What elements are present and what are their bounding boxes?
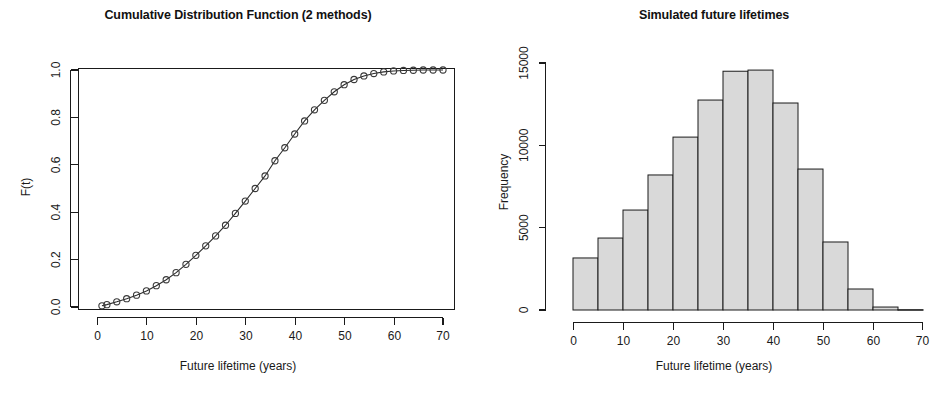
figure-canvas: Cumulative Distribution Function (2 meth… bbox=[0, 0, 952, 411]
cdf-xtick-60: 60 bbox=[388, 329, 402, 343]
histogram-ytick-0: 0 bbox=[517, 306, 531, 313]
cdf-ytick-4: 0.8 bbox=[49, 109, 63, 126]
histogram-bar bbox=[898, 310, 923, 311]
histogram-ylabel: Frequency bbox=[497, 132, 511, 232]
histogram-xtick-30: 30 bbox=[717, 334, 731, 348]
histogram-bar bbox=[573, 258, 598, 310]
cdf-marker-group bbox=[99, 67, 446, 309]
cdf-y-axis: 0.0 0.2 0.4 0.6 0.8 1.0 bbox=[49, 61, 78, 315]
histogram-bar bbox=[773, 103, 798, 310]
histogram-bar bbox=[798, 169, 823, 310]
cdf-xlabel: Future lifetime (years) bbox=[0, 359, 476, 373]
cdf-xtick-50: 50 bbox=[338, 329, 352, 343]
cdf-xtick-10: 10 bbox=[140, 329, 154, 343]
histogram-svg: 0 5000 10000 15000 bbox=[476, 0, 952, 411]
histogram-bar bbox=[598, 238, 623, 310]
histogram-xlabel: Future lifetime (years) bbox=[476, 359, 952, 373]
cdf-ytick-2: 0.4 bbox=[49, 204, 63, 221]
cdf-ytick-0: 0.0 bbox=[49, 298, 63, 315]
panel-histogram: Simulated future lifetimes 0 5000 10000 … bbox=[476, 0, 952, 411]
cdf-xtick-0: 0 bbox=[94, 329, 101, 343]
histogram-bar-group bbox=[573, 70, 923, 310]
histogram-bar bbox=[673, 137, 698, 310]
cdf-xtick-30: 30 bbox=[239, 329, 253, 343]
histogram-bar bbox=[873, 307, 898, 310]
cdf-ytick-5: 1.0 bbox=[49, 61, 63, 78]
histogram-ytick-15000: 15000 bbox=[517, 46, 531, 80]
cdf-xtick-40: 40 bbox=[289, 329, 303, 343]
histogram-bar bbox=[748, 70, 773, 310]
histogram-xtick-10: 10 bbox=[617, 334, 631, 348]
histogram-y-axis: 0 5000 10000 15000 bbox=[517, 46, 546, 313]
histogram-xtick-20: 20 bbox=[667, 334, 681, 348]
cdf-ytick-1: 0.2 bbox=[49, 251, 63, 268]
histogram-bar bbox=[823, 242, 848, 310]
histogram-x-axis: 0 10 20 30 40 50 60 70 bbox=[570, 323, 929, 349]
histogram-bar bbox=[648, 175, 673, 310]
panel-cdf: Cumulative Distribution Function (2 meth… bbox=[0, 0, 476, 411]
histogram-plot-area: 0 5000 10000 15000 bbox=[476, 0, 952, 411]
cdf-box-frame bbox=[79, 69, 455, 310]
histogram-xtick-60: 60 bbox=[867, 334, 881, 348]
histogram-ytick-10000: 10000 bbox=[517, 128, 531, 162]
histogram-xtick-40: 40 bbox=[767, 334, 781, 348]
cdf-svg: 0.0 0.2 0.4 0.6 0.8 1.0 bbox=[0, 0, 476, 411]
cdf-xtick-70: 70 bbox=[436, 329, 450, 343]
cdf-ytick-3: 0.6 bbox=[49, 156, 63, 173]
histogram-ytick-5000: 5000 bbox=[517, 214, 531, 241]
histogram-bar bbox=[623, 210, 648, 310]
histogram-bar bbox=[848, 289, 873, 310]
histogram-xtick-0: 0 bbox=[570, 334, 577, 348]
cdf-ylabel: F(t) bbox=[19, 147, 33, 227]
cdf-x-axis: 0 10 20 30 40 50 60 70 bbox=[94, 318, 450, 344]
cdf-plot-area: 0.0 0.2 0.4 0.6 0.8 1.0 bbox=[0, 0, 476, 411]
histogram-bar bbox=[698, 100, 723, 310]
cdf-xtick-20: 20 bbox=[190, 329, 204, 343]
histogram-xtick-50: 50 bbox=[817, 334, 831, 348]
histogram-xtick-70: 70 bbox=[916, 334, 930, 348]
histogram-bar bbox=[723, 71, 748, 310]
cdf-curve bbox=[102, 70, 443, 306]
